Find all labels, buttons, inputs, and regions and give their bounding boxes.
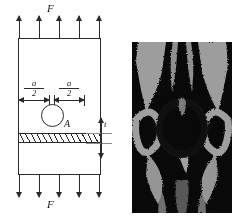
arrowhead-right-icon [44, 97, 50, 103]
figure-container: F a 2 a 2 A [0, 0, 240, 220]
arrowhead-down-icon [56, 192, 62, 198]
fraction-denominator: 2 [59, 89, 79, 98]
fraction-denominator: 2 [24, 89, 44, 98]
arrowhead-up-icon [16, 15, 22, 21]
leader-line-bottom [86, 143, 112, 144]
arrow-down [99, 175, 100, 197]
dimension-label-right: a 2 [59, 79, 79, 98]
arrow-up [99, 16, 100, 38]
arrow-up [39, 16, 40, 38]
arrowhead-down-icon [76, 192, 82, 198]
arrow-down [59, 175, 60, 197]
arrowhead-left-icon [18, 97, 24, 103]
dimension-label-left: a 2 [24, 79, 44, 98]
arrow-up [79, 16, 80, 38]
arrowhead-right-icon [79, 97, 85, 103]
force-label-bottom: F [47, 198, 54, 210]
arrow-up [59, 16, 60, 38]
arrow-down [19, 175, 20, 197]
arrowhead-down-icon [36, 192, 42, 198]
leader-line-top [86, 133, 112, 134]
photoelastic-photo [132, 42, 232, 213]
hatched-section-band [18, 133, 101, 143]
arrow-down [39, 175, 40, 197]
dimension-line-right [54, 100, 84, 101]
force-label-top: F [47, 2, 54, 14]
fringe-pattern-graphic [132, 42, 232, 213]
top-force-arrows [18, 16, 101, 38]
thickness-dimension-line [101, 118, 102, 158]
arrowhead-down-icon [16, 192, 22, 198]
arrowhead-down-icon [96, 192, 102, 198]
arrowhead-up-icon [36, 15, 42, 21]
thickness-label: t [104, 119, 107, 129]
arrowhead-left-icon [53, 97, 59, 103]
dimension-line-left [19, 100, 49, 101]
circular-hole [41, 104, 64, 127]
plate-schematic: F a 2 a 2 A [0, 0, 120, 220]
arrowhead-up-icon [96, 15, 102, 21]
arrow-down [79, 175, 80, 197]
arrow-up [19, 16, 20, 38]
bottom-force-arrows [18, 175, 101, 197]
arrowhead-up-icon [76, 15, 82, 21]
hole-label: A [64, 118, 70, 129]
arrowhead-up-icon [56, 15, 62, 21]
arrowhead-down-icon [98, 153, 104, 159]
